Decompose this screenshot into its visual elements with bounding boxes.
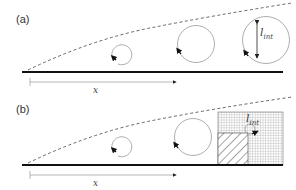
x-label: x	[93, 85, 98, 95]
boundary-layer-diagram: (a) x lint (b) x	[0, 0, 296, 190]
small-eddy	[112, 137, 132, 157]
panel-b: (b) x lint	[16, 97, 292, 188]
boundary-layer-edge-dashed	[28, 3, 292, 70]
panel-a-label: (a)	[16, 13, 29, 25]
large-eddy: lint	[243, 17, 290, 64]
x-label: x	[93, 178, 98, 188]
medium-eddy	[178, 26, 215, 63]
panel-b-label: (b)	[16, 103, 29, 115]
panel-a: (a) x lint	[16, 3, 292, 95]
medium-eddy	[175, 119, 212, 156]
l-int-label: lint	[260, 26, 273, 41]
hatch-pattern	[218, 133, 248, 165]
small-eddy	[112, 45, 132, 65]
